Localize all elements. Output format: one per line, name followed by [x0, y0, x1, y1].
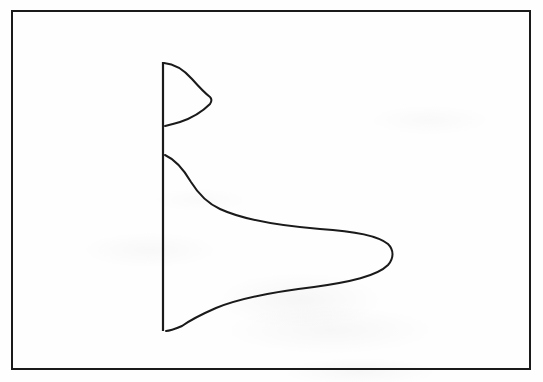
- scanned-figure-page: [0, 0, 543, 382]
- upper-distribution-curve: [164, 63, 212, 126]
- figure-canvas: [0, 0, 543, 382]
- figure-border: [12, 11, 530, 369]
- lower-distribution-curve: [165, 155, 393, 331]
